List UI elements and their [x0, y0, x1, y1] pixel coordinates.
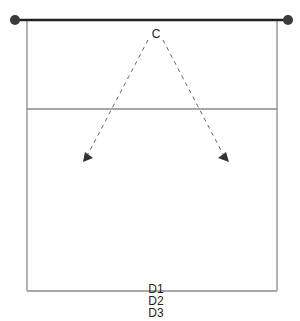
net-post-right-icon [283, 15, 293, 25]
court-diagram [0, 0, 300, 321]
net-post-left-icon [10, 15, 20, 25]
arrow-path-left [87, 40, 148, 156]
arrowhead-right-icon [218, 152, 229, 162]
arrow-path-right [163, 40, 224, 156]
player-label-c: C [136, 28, 176, 40]
player-label-d3: D3 [136, 307, 176, 319]
